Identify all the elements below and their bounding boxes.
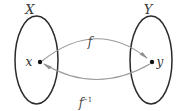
inverse-map-curve — [44, 64, 150, 80]
set-ellipse-domain — [15, 16, 58, 104]
set-label-codomain: Y — [144, 2, 154, 17]
set-label-domain: X — [24, 2, 35, 17]
element-dot-x — [38, 60, 42, 64]
element-label-y: y — [156, 55, 164, 69]
inverse-map-arrowhead — [43, 63, 51, 69]
element-dot-y — [150, 60, 154, 64]
function-inverse-diagram: X Y x y f f −1 — [0, 0, 187, 111]
inverse-map-label-group: f −1 — [78, 96, 92, 110]
element-label-x: x — [26, 55, 33, 69]
forward-map-label: f — [87, 35, 95, 49]
inverse-map-label-exponent: −1 — [82, 96, 92, 104]
diagram-canvas: X Y x y f f −1 — [0, 0, 187, 111]
set-ellipse-codomain — [130, 16, 172, 104]
